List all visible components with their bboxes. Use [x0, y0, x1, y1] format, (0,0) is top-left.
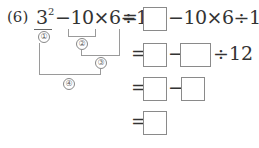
step-label-4: ④	[63, 78, 75, 90]
bracket2-left	[68, 29, 69, 36]
bracket3-bottom	[81, 55, 120, 56]
answer-box-2b[interactable]	[180, 43, 211, 67]
answer-box-4[interactable]	[143, 111, 167, 135]
bracket4-left	[39, 43, 40, 74]
bracket3-right	[119, 29, 120, 56]
bracket4-right	[100, 69, 101, 75]
answer-box-3b[interactable]	[181, 77, 205, 101]
row2-rest: ÷12	[213, 44, 253, 63]
problem-number: (6)	[7, 10, 28, 25]
answer-box-1a[interactable]	[143, 7, 167, 31]
step-label-2: ②	[76, 38, 88, 50]
row1-rest: −10×6÷12	[168, 8, 259, 27]
base: 3	[36, 8, 48, 27]
answer-box-3a[interactable]	[143, 77, 167, 101]
exponent: 2	[48, 6, 54, 17]
step-label-1: ①	[38, 31, 50, 43]
underline-step1	[34, 29, 52, 30]
bracket4-bottom	[39, 74, 101, 75]
bracket2-right	[95, 29, 96, 36]
answer-box-2a[interactable]	[143, 43, 167, 67]
bracket2-bottom	[68, 36, 96, 37]
step-label-3: ③	[95, 57, 107, 69]
equals-1: =	[122, 8, 138, 27]
